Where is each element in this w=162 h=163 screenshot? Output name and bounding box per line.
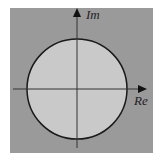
real-axis-label: Re bbox=[133, 93, 148, 108]
imaginary-axis-label: Im bbox=[85, 7, 100, 22]
complex-plane-diagram: Im Re bbox=[0, 0, 162, 163]
